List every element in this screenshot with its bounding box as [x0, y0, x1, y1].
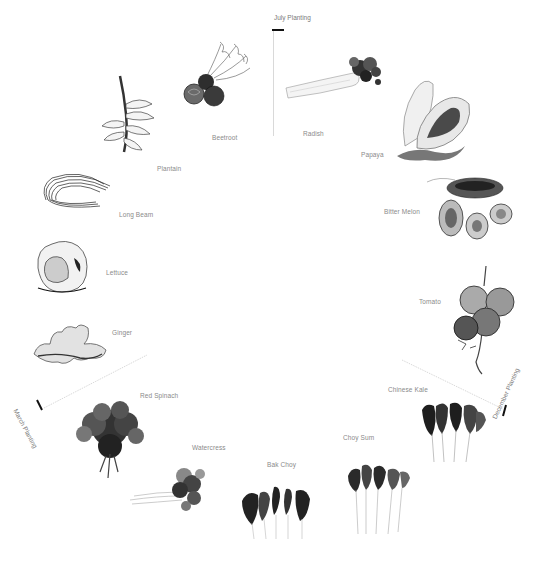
ginger-icon [30, 322, 110, 366]
bak-choy-icon [240, 485, 316, 543]
bitter-melon-icon [425, 174, 525, 246]
plant-label-ginger: Ginger [112, 329, 132, 336]
plant-label-bak-choy: Bak Choy [267, 461, 296, 468]
red-spinach-icon [72, 398, 148, 480]
long-bean-icon [40, 170, 116, 212]
plant-label-papaya: Papaya [361, 151, 384, 158]
plant-label-plantain: Plantain [157, 165, 181, 172]
tomato-icon [448, 262, 520, 380]
plantain-icon [100, 74, 158, 156]
plant-label-tomato: Tomato [419, 298, 441, 305]
plant-label-watercress: Watercress [192, 444, 226, 451]
choy-sum-icon [344, 460, 416, 538]
plant-label-chinese-kale: Chinese Kale [388, 386, 428, 393]
plant-label-radish: Radish [303, 130, 324, 137]
plant-label-choy-sum: Choy Sum [343, 434, 374, 441]
beetroot-icon [176, 38, 256, 110]
papaya-icon [395, 76, 475, 162]
plant-label-lettuce: Lettuce [106, 269, 128, 276]
plant-label-red-spinach: Red Spinach [140, 392, 178, 399]
plant-label-long-bean: Long Beam [119, 211, 153, 218]
lettuce-icon [32, 238, 92, 296]
chinese-kale-icon [418, 400, 490, 466]
plant-label-beetroot: Beetroot [212, 134, 237, 141]
plant-label-bitter-melon: Bitter Melon [384, 208, 420, 215]
radish-icon [280, 50, 390, 105]
season-label-july: July Planting [274, 14, 311, 21]
